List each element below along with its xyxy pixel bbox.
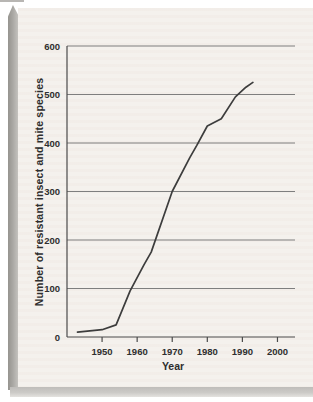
y-tick-label: 0 — [55, 332, 60, 343]
x-axis-title: Year — [67, 360, 279, 372]
y-axis-title-text: Number of resistant insect and mite spec… — [33, 77, 45, 306]
y-axis-title: Number of resistant insect and mite spec… — [27, 46, 51, 337]
figure-scan: 0100200300400500600195019601970198019902… — [0, 0, 313, 402]
x-tick-label: 1960 — [127, 346, 148, 357]
x-tick-label: 1990 — [232, 346, 253, 357]
x-tick-label: 1970 — [162, 346, 183, 357]
x-tick-label: 1950 — [92, 346, 113, 357]
x-tick-label: 2000 — [267, 346, 288, 357]
data-line — [78, 82, 253, 332]
x-tick-label: 1980 — [197, 346, 218, 357]
